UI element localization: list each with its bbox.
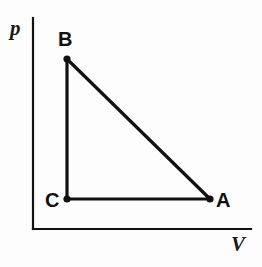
diagram-canvas	[0, 0, 262, 267]
vertex-marker-c	[63, 195, 70, 202]
volume-axis-label: V	[231, 234, 245, 255]
pressure-axis-label: p	[10, 18, 21, 39]
vertex-label-a: A	[216, 190, 230, 210]
vertex-marker-b	[63, 55, 70, 62]
vertex-label-c: C	[45, 190, 59, 210]
cycle-path-group	[67, 59, 210, 199]
pv-diagram-figure: p V B C A	[0, 0, 262, 267]
vertex-label-b: B	[58, 29, 72, 49]
vertex-marker-a	[206, 195, 213, 202]
segment-a-b	[67, 59, 210, 199]
